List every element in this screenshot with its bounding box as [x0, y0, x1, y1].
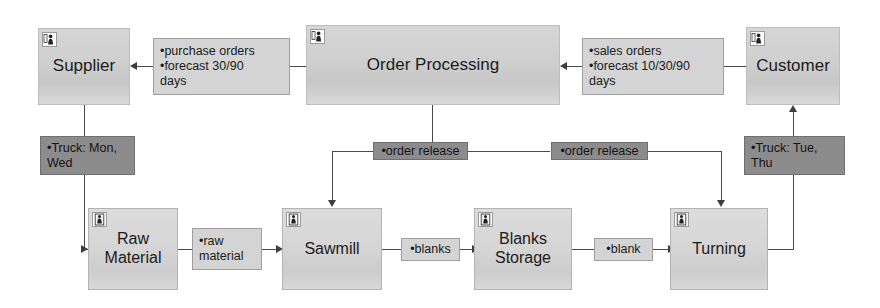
purchase-orders-text: •purchase orders •forecast 30/90 days — [160, 44, 255, 88]
node-sawmill[interactable]: Sawmill — [282, 208, 382, 290]
node-order-processing[interactable]: Order Processing — [306, 25, 560, 105]
node-customer[interactable]: Customer — [746, 27, 840, 105]
node-turning[interactable]: Turning — [670, 208, 768, 290]
connector-turning-to-truckright-v — [793, 175, 794, 250]
truck-right-line2: Thu — [751, 156, 817, 171]
infobox-order-release-left[interactable]: •order release — [373, 142, 468, 160]
connector-drop-to-turning — [721, 151, 722, 201]
connector-blanksstorage-to-blankflow — [572, 249, 594, 250]
node-label: Sawmill — [283, 240, 381, 259]
purchase-orders-line1: •purchase orders — [160, 44, 255, 59]
infobox-blank-flow[interactable]: •blank — [594, 238, 653, 261]
raw-material-flow-line1: •raw — [199, 234, 243, 249]
infobox-order-release-right[interactable]: •order release — [551, 142, 648, 160]
sales-orders-text: •sales orders •forecast 10/30/90 days — [589, 44, 690, 88]
actor-person-icon — [310, 29, 325, 44]
arrow-to-orderprocessing — [560, 62, 567, 70]
connector-truckleft-down — [84, 175, 85, 249]
arrow-into-sawmill — [328, 200, 336, 207]
truck-left-line1: •Truck: Mon, — [47, 141, 117, 156]
process-person-icon — [674, 212, 689, 227]
sales-orders-line1: •sales orders — [589, 44, 690, 59]
infobox-purchase-orders[interactable]: •purchase orders •forecast 30/90 days — [153, 38, 290, 95]
node-label: Turning — [671, 240, 767, 259]
connector-customer-to-salesorders — [724, 66, 746, 67]
process-person-icon — [286, 212, 301, 227]
connector-orderreleaseleft-lead — [332, 151, 373, 152]
node-label: Raw Material — [105, 230, 162, 268]
connector-sawmill-to-blanksflow — [382, 249, 401, 250]
blanks-flow-label: •blanks — [406, 242, 455, 257]
actor-person-icon — [750, 31, 765, 46]
node-label: Customer — [747, 56, 839, 76]
raw-material-flow-line2: material — [199, 249, 243, 264]
supply-chain-diagram: Supplier •purchase orders •forecast 30/9… — [0, 0, 880, 308]
order-release-right-label: •order release — [556, 144, 643, 159]
raw-material-line1: Raw — [105, 230, 162, 249]
truck-left-line2: Wed — [47, 156, 117, 171]
process-person-icon — [478, 212, 493, 227]
arrow-to-supplier — [130, 62, 137, 70]
connector-salesorders-to-orderprocessing — [566, 66, 582, 67]
blanks-storage-line1: Blanks — [495, 230, 551, 249]
node-raw-material[interactable]: Raw Material — [88, 208, 178, 290]
blanks-storage-line2: Storage — [495, 249, 551, 268]
purchase-orders-line2: •forecast 30/90 — [160, 59, 255, 74]
order-release-left-label: •order release — [378, 144, 463, 159]
sales-orders-line3: days — [589, 74, 690, 89]
connector-orderreleaseright-lead — [648, 151, 721, 152]
blank-flow-label: •blank — [599, 242, 648, 257]
connector-turning-to-truckright-h — [768, 249, 794, 250]
infobox-truck-right[interactable]: •Truck: Tue, Thu — [744, 136, 845, 175]
node-supplier[interactable]: Supplier — [38, 28, 130, 105]
node-label: Supplier — [39, 56, 129, 76]
connector-rawmaterial-to-rawmaterialflow — [178, 249, 192, 250]
arrow-to-customer — [789, 105, 797, 112]
node-label: Blanks Storage — [495, 230, 551, 268]
truck-right-text: •Truck: Tue, Thu — [751, 141, 817, 171]
raw-material-line2: Material — [105, 249, 162, 268]
infobox-blanks-flow[interactable]: •blanks — [401, 238, 460, 261]
connector-purchaseorders-to-supplier — [136, 66, 153, 67]
truck-right-line1: •Truck: Tue, — [751, 141, 817, 156]
infobox-raw-material-flow[interactable]: •raw material — [192, 228, 262, 270]
actor-person-icon — [42, 32, 57, 47]
purchase-orders-line3: days — [160, 74, 255, 89]
connector-supplier-to-truckleft — [84, 105, 85, 136]
raw-material-flow-text: •raw material — [199, 234, 243, 264]
infobox-truck-left[interactable]: •Truck: Mon, Wed — [40, 136, 135, 175]
connector-sawmill-vertical — [332, 151, 333, 203]
connector-orderprocessing-to-purchaseorders — [290, 66, 306, 67]
arrow-to-rawmaterial — [81, 245, 88, 253]
arrow-into-turning — [717, 200, 725, 207]
node-blanks-storage[interactable]: Blanks Storage — [474, 208, 572, 290]
connector-truckright-to-customer — [793, 112, 794, 136]
truck-left-text: •Truck: Mon, Wed — [47, 141, 117, 171]
infobox-sales-orders[interactable]: •sales orders •forecast 10/30/90 days — [582, 38, 724, 95]
node-label: Order Processing — [307, 55, 559, 75]
sales-orders-line2: •forecast 10/30/90 — [589, 59, 690, 74]
process-person-icon — [92, 212, 107, 227]
